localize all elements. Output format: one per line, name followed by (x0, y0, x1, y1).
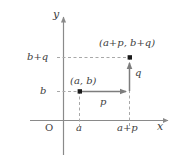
x-axis-label: x (157, 121, 163, 132)
point-label-ab: (a, b) (70, 76, 97, 86)
vector-label-q: q (135, 68, 141, 78)
x-tick-label-a: a (76, 123, 82, 133)
point-apbq-marker (128, 55, 132, 59)
y-axis-label: y (53, 9, 59, 20)
x-tick-label-ap: a+p (117, 123, 138, 133)
point-ab-marker (78, 89, 82, 93)
y-tick-label-b: b (40, 86, 46, 96)
y-tick-label-bq: b+q (27, 52, 48, 62)
coordinate-diagram: y x O b b+q a a+p (a, b) (a+p, b+q) p q (0, 0, 180, 168)
vector-label-p: p (100, 97, 106, 107)
origin-label: O (45, 123, 53, 133)
point-label-apbq: (a+p, b+q) (99, 38, 155, 48)
